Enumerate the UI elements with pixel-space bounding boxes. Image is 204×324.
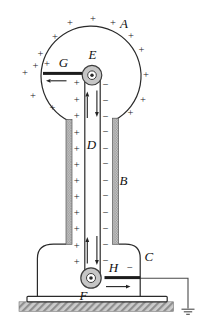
label-E: E [88, 47, 97, 62]
label-A: A [119, 16, 128, 31]
plus-charge: + [38, 48, 44, 59]
plus-charge: + [110, 17, 116, 28]
collector-comb-G [43, 72, 83, 75]
minus-charge: − [103, 143, 109, 154]
belt-down-arrow-top [95, 91, 99, 118]
plus-charge: + [74, 223, 80, 234]
plus-charge: + [143, 69, 149, 80]
minus-charge: − [127, 262, 133, 273]
plus-charge: + [90, 13, 96, 24]
plus-charge: + [74, 240, 80, 251]
van-de-graaff-diagram: +++++++++++++++++++++++++++ −−−−−−−−−−−−… [0, 0, 204, 324]
charge-flow-arrow-G [46, 79, 67, 83]
lower-pulley [81, 268, 101, 288]
plus-charge: + [50, 102, 56, 113]
plus-charge: + [33, 60, 39, 71]
positive-charges: +++++++++++++++++++++++++++ [22, 13, 149, 267]
minus-charge: − [103, 175, 109, 186]
base-plate [27, 296, 167, 302]
label-C: C [144, 249, 153, 264]
plus-charge: + [139, 44, 145, 55]
belt-down-arrow-bottom [95, 236, 99, 265]
plus-charge: + [74, 256, 80, 267]
plus-charge: + [44, 58, 50, 69]
plus-charge: + [74, 77, 80, 88]
plus-charge: + [74, 191, 80, 202]
label-F: F [79, 288, 89, 303]
plus-charge: + [74, 143, 80, 154]
plus-charge: + [128, 30, 134, 41]
minus-charge: − [103, 158, 109, 169]
label-D: D [86, 137, 97, 152]
label-B: B [120, 173, 128, 188]
plus-charge: + [74, 94, 80, 105]
plus-charge: + [74, 127, 80, 138]
plus-charge: + [74, 110, 80, 121]
minus-charge: − [103, 111, 109, 122]
minus-charge: − [103, 207, 109, 218]
plus-charge: + [30, 90, 36, 101]
plus-charge: + [140, 94, 146, 105]
ground-symbol-icon [182, 309, 195, 314]
diagram-canvas: +++++++++++++++++++++++++++ −−−−−−−−−−−−… [0, 0, 204, 324]
plus-charge: + [74, 175, 80, 186]
belt-up-arrow-top [85, 92, 89, 119]
plus-charge: + [52, 31, 58, 42]
plus-charge: + [67, 17, 73, 28]
upper-pulley [82, 65, 102, 85]
column-wall-right [113, 118, 119, 244]
minus-charge: − [103, 79, 109, 90]
earth-hatch [19, 302, 174, 312]
minus-charge: − [103, 223, 109, 234]
charge-flow-arrow-H [106, 285, 131, 289]
belt-up-arrow-bottom [85, 237, 89, 264]
label-G: G [59, 55, 69, 70]
charging-comb-H [105, 276, 141, 279]
minus-charge: − [103, 126, 109, 137]
minus-charge: − [103, 239, 109, 250]
plus-charge: + [74, 159, 80, 170]
minus-charge: − [103, 190, 109, 201]
column-wall-left [66, 120, 72, 245]
plus-charge: + [74, 207, 80, 218]
plus-charge: + [22, 67, 28, 78]
label-H: H [108, 260, 119, 275]
minus-charge: − [103, 95, 109, 106]
plus-charge: + [128, 107, 134, 118]
